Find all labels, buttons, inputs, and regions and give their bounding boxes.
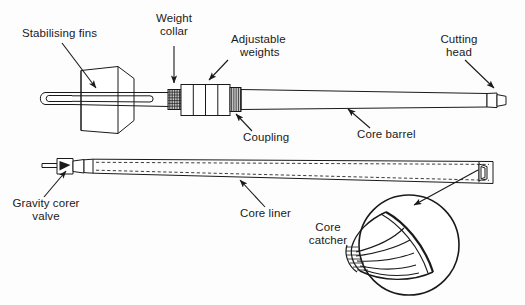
core-catcher-seat bbox=[479, 162, 487, 182]
label-core-catcher-line1: Core bbox=[300, 221, 356, 234]
cutting-head-part bbox=[487, 93, 506, 108]
label-core-liner: Core liner bbox=[240, 207, 291, 220]
label-core-catcher-line2: catcher bbox=[300, 234, 356, 247]
label-coupling: Coupling bbox=[243, 131, 289, 144]
weight-collar-part bbox=[168, 90, 181, 110]
label-weight-collar-line1: Weight bbox=[139, 12, 209, 25]
label-cutting-head-line2: head bbox=[428, 46, 490, 59]
label-stabilising-fins: Stabilising fins bbox=[22, 27, 97, 40]
coupling-part bbox=[230, 88, 241, 112]
suspension-bail bbox=[40, 93, 72, 105]
gravity-corer-valve-part bbox=[42, 159, 93, 175]
core-catcher-detail bbox=[346, 195, 459, 295]
label-adjustable-weights-line2: weights bbox=[240, 46, 280, 59]
stabilising-fins-body bbox=[81, 67, 134, 134]
gravity-corer-diagram: Stabilising fins Weight collar Adjustabl… bbox=[0, 0, 525, 305]
label-cutting-head-line1: Cutting bbox=[428, 33, 490, 46]
label-adjustable-weights-line1: Adjustable bbox=[231, 33, 286, 46]
core-liner-inner-dashes bbox=[96, 162, 489, 180]
core-barrel-tube bbox=[241, 90, 487, 110]
label-core-barrel: Core barrel bbox=[357, 128, 416, 141]
label-weight-collar-line2: collar bbox=[139, 25, 209, 38]
label-gravity-corer-valve-line2: valve bbox=[3, 210, 89, 223]
label-gravity-corer-valve-line1: Gravity corer bbox=[3, 197, 89, 210]
adjustable-weights-block bbox=[181, 85, 230, 116]
